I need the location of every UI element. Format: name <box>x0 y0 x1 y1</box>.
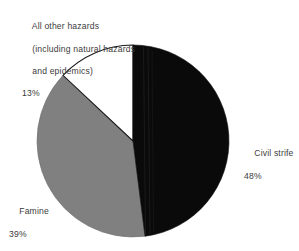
slice-label-line2: (including natural hazards <box>32 44 135 54</box>
slice-label-line1: Civil strife <box>254 148 293 158</box>
pie-slice-civil-strife <box>133 45 229 236</box>
slice-label-all-other-hazards: All other hazards (including natural haz… <box>22 10 135 122</box>
slice-percent-civil-strife: 48% <box>244 171 294 182</box>
slice-label-line1: Famine <box>19 206 49 216</box>
slice-percent-all-other-hazards: 13% <box>22 88 135 99</box>
pie-chart-figure: All other hazards (including natural haz… <box>0 0 299 251</box>
slice-label-civil-strife: Civil strife 48% <box>244 137 294 204</box>
slice-label-line3: and epidemics) <box>32 66 93 76</box>
slice-label-line1: All other hazards <box>32 21 99 31</box>
slice-label-famine: Famine 39% <box>9 195 49 251</box>
slice-percent-famine: 39% <box>9 229 49 240</box>
